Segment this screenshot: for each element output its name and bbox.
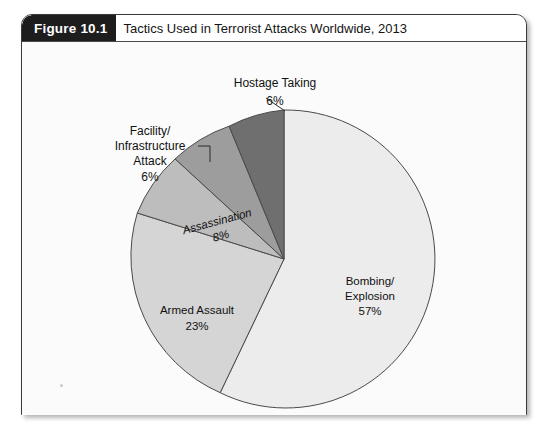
label-facility-line2: Infrastructure	[115, 139, 186, 153]
label-armed-assault-name: Armed Assault	[160, 304, 235, 316]
label-armed-assault-percent: 23%	[185, 320, 208, 332]
label-facility-line1: Facility/	[130, 124, 171, 138]
label-facility-line3: Attack	[133, 154, 167, 168]
label-hostage-taking-percent: 6%	[266, 94, 284, 108]
pie-chart: Bombing/ Explosion 57% Armed Assault 23%…	[22, 42, 526, 415]
label-bombing-explosion-line1: Bombing/	[346, 275, 395, 287]
figure-title: Tactics Used in Terrorist Attacks Worldw…	[116, 15, 406, 41]
figure-container: Figure 10.1 Tactics Used in Terrorist At…	[21, 14, 527, 415]
label-bombing-explosion-line2: Explosion	[345, 290, 395, 302]
pie-chart-svg: Bombing/ Explosion 57% Armed Assault 23%…	[22, 42, 526, 415]
label-bombing-explosion-percent: 57%	[358, 305, 381, 317]
label-hostage-taking-name: Hostage Taking	[234, 76, 317, 90]
figure-number-badge: Figure 10.1	[22, 15, 116, 41]
label-facility-percent: 6%	[141, 170, 159, 184]
scan-speck	[60, 384, 63, 387]
figure-header: Figure 10.1 Tactics Used in Terrorist At…	[22, 15, 526, 42]
